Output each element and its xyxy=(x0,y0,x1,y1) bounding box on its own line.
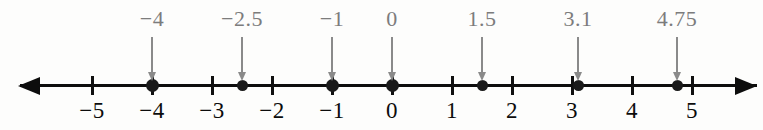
tick-label: −2 xyxy=(242,98,302,124)
plotted-point xyxy=(672,80,683,91)
point-value-label: 1.5 xyxy=(437,6,527,32)
callout-arrow-down-icon xyxy=(574,72,582,81)
tick-label: 5 xyxy=(662,98,722,124)
tick-mark xyxy=(511,76,514,95)
plotted-point xyxy=(237,80,248,91)
callout-arrow-down-icon xyxy=(328,72,336,81)
callout-arrow-shaft xyxy=(151,37,153,74)
callout-arrow-shaft xyxy=(331,37,333,74)
callout-arrow-down-icon xyxy=(238,72,246,81)
number-line-figure: −5−4−3−2−1012345 −4−2.5−101.53.14.75 xyxy=(0,0,763,130)
tick-label: −3 xyxy=(182,98,242,124)
callout-arrow-shaft xyxy=(481,37,483,74)
tick-label: 2 xyxy=(482,98,542,124)
callout-arrow-shaft xyxy=(577,37,579,74)
tick-label: 1 xyxy=(422,98,482,124)
point-value-label: 0 xyxy=(347,6,437,32)
plotted-point xyxy=(573,80,584,91)
point-value-label: 4.75 xyxy=(632,6,722,32)
point-value-label: 3.1 xyxy=(533,6,623,32)
tick-mark xyxy=(211,76,214,95)
callout-arrow-shaft xyxy=(676,37,678,74)
tick-label: 3 xyxy=(542,98,602,124)
plotted-point xyxy=(477,80,488,91)
point-value-label: −2.5 xyxy=(197,6,287,32)
callout-arrow-shaft xyxy=(241,37,243,74)
tick-label: 0 xyxy=(362,98,422,124)
callout-arrow-down-icon xyxy=(478,72,486,81)
tick-label: −1 xyxy=(302,98,362,124)
callout-arrow-down-icon xyxy=(388,72,396,81)
tick-mark xyxy=(691,76,694,95)
tick-label: −5 xyxy=(62,98,122,124)
callout-arrow-down-icon xyxy=(673,72,681,81)
tick-mark xyxy=(271,76,274,95)
tick-label: −4 xyxy=(122,98,182,124)
point-value-label: −4 xyxy=(107,6,197,32)
tick-mark xyxy=(451,76,454,95)
tick-label: 4 xyxy=(602,98,662,124)
arrow-right-icon xyxy=(735,77,757,95)
arrow-left-icon xyxy=(18,77,40,95)
callout-arrow-shaft xyxy=(391,37,393,74)
callout-arrow-down-icon xyxy=(148,72,156,81)
tick-mark xyxy=(631,76,634,95)
tick-mark xyxy=(91,76,94,95)
